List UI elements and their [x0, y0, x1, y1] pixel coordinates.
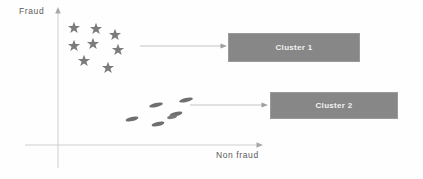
ellipse-marker [125, 115, 139, 122]
y-axis [55, 7, 61, 168]
star-marker [109, 29, 121, 40]
cluster-2-box-label: Cluster 2 [316, 101, 353, 110]
star-marker [68, 40, 80, 51]
cluster-1-box-label: Cluster 1 [276, 43, 313, 52]
star-marker [102, 62, 114, 73]
y-axis-arrowhead-icon [55, 7, 61, 14]
x-axis-arrowhead-icon [257, 142, 264, 148]
connector-arrowhead-icon [221, 43, 228, 48]
ellipse-marker [151, 120, 165, 127]
y-axis-label: Fraud [19, 6, 44, 16]
diagram-canvas: Fraud Non fraud Cluster 1 Cluster 2 [0, 0, 423, 179]
star-marker [112, 44, 124, 55]
cluster-1-points [68, 22, 124, 73]
star-marker [87, 38, 99, 49]
ellipse-marker [179, 96, 194, 103]
x-axis-label: Non fraud [216, 150, 259, 160]
cluster-1-box[interactable]: Cluster 1 [228, 33, 360, 62]
connector-arrowhead-icon [262, 102, 269, 107]
x-axis [25, 142, 263, 148]
scatter-diagram-svg [0, 0, 423, 179]
cluster-2-box[interactable]: Cluster 2 [270, 92, 398, 119]
cluster-2-points [125, 96, 193, 127]
star-marker [90, 23, 102, 34]
star-marker [78, 55, 90, 66]
cluster-1-connector-arrow [140, 43, 227, 48]
cluster-2-connector-arrow [190, 102, 268, 107]
ellipse-marker [149, 101, 164, 108]
star-marker [68, 22, 80, 33]
